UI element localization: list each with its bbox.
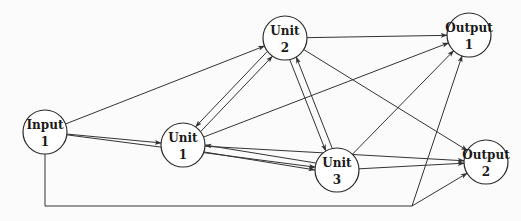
node-output1-label-line2: 1: [465, 38, 473, 52]
edge-input1-to-unit1: [67, 134, 161, 143]
node-unit2: Unit 2: [263, 16, 307, 60]
edge-unit1-to-unit2: [201, 56, 273, 131]
node-input1-label-line1: Input: [27, 118, 64, 132]
edge-unit3-to-unit2: [296, 57, 332, 148]
node-input1-label-line2: 1: [41, 135, 49, 149]
node-unit3: Unit 3: [315, 148, 359, 192]
node-unit2-label-line2: 2: [281, 41, 289, 55]
edge-unit3-to-output1: [352, 51, 453, 155]
node-unit1-label-line1: Unit: [168, 131, 198, 145]
edge-input1-to-output1: [412, 56, 462, 206]
node-unit1: Unit 1: [161, 123, 205, 167]
nodes-layer: Input 1 Unit 1 Unit 2 Unit 3 Output: [23, 13, 510, 192]
edge-unit2-to-unit3: [290, 60, 326, 151]
edges-layer: [45, 35, 467, 206]
node-unit1-label-line2: 1: [179, 148, 187, 162]
node-input1: Input 1: [23, 110, 67, 154]
edge-unit3-to-output2: [359, 163, 464, 169]
edge-input1-to-output2: [412, 173, 467, 206]
edge-input1-to-unit2: [65, 46, 264, 124]
node-output2-label-line2: 2: [482, 165, 490, 179]
node-unit2-label-line1: Unit: [270, 24, 300, 38]
edge-unit1-to-unit3: [204, 152, 315, 170]
network-diagram: Input 1 Unit 1 Unit 2 Unit 3 Output: [0, 0, 521, 221]
edge-unit2-to-output2: [304, 50, 468, 151]
node-output2: Output 2: [462, 140, 510, 184]
node-output1-label-line1: Output: [445, 21, 493, 35]
diagram-svg: Input 1 Unit 1 Unit 2 Unit 3 Output: [0, 0, 521, 221]
node-output2-label-line1: Output: [462, 148, 510, 162]
node-output1: Output 1: [445, 13, 493, 57]
edge-unit2-to-unit1: [196, 52, 268, 127]
node-unit3-label-line2: 3: [333, 173, 341, 187]
edge-unit2-to-output1: [307, 35, 447, 37]
node-unit3-label-line1: Unit: [322, 156, 352, 170]
